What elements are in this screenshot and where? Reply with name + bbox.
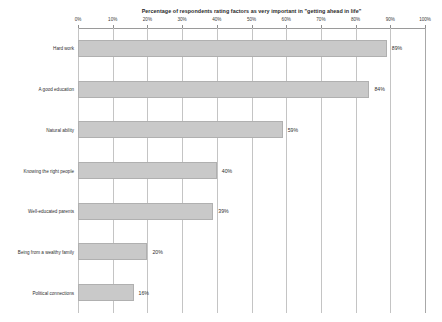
x-tick-mark xyxy=(147,25,148,28)
category-label: Well-educated parents xyxy=(0,209,74,214)
x-tick-label: 30% xyxy=(177,17,186,22)
category-label: Being from a wealthy family xyxy=(0,249,74,254)
x-tick-mark xyxy=(113,25,114,28)
bar-row: 39% xyxy=(78,203,425,220)
x-tick-label: 10% xyxy=(108,17,117,22)
x-tick-label: 70% xyxy=(316,17,325,22)
category-label: Natural ability xyxy=(0,127,74,132)
x-tick-label: 60% xyxy=(282,17,291,22)
bar xyxy=(78,243,147,260)
bar xyxy=(78,284,134,301)
bar-value-label: 39% xyxy=(218,208,228,214)
bar xyxy=(78,81,369,98)
bar-row: 16% xyxy=(78,284,425,301)
x-tick-mark xyxy=(390,25,391,28)
bar xyxy=(78,162,217,179)
plot-area: 0%10%20%30%40%50%60%70%80%90%100%89%84%5… xyxy=(78,28,425,313)
x-tick-label: 50% xyxy=(247,17,256,22)
bar-value-label: 59% xyxy=(288,127,298,133)
x-tick-label: 90% xyxy=(386,17,395,22)
bar-row: 59% xyxy=(78,121,425,138)
bar-value-label: 84% xyxy=(374,86,384,92)
x-tick-mark xyxy=(252,25,253,28)
category-label: Knowing the right people xyxy=(0,168,74,173)
category-label: A good education xyxy=(0,87,74,92)
chart-title: Percentage of respondents rating factors… xyxy=(78,8,425,14)
x-tick-label: 40% xyxy=(212,17,221,22)
x-tick-mark xyxy=(217,25,218,28)
x-tick-mark xyxy=(286,25,287,28)
x-tick-label: 0% xyxy=(75,17,82,22)
bar-value-label: 20% xyxy=(152,249,162,255)
bar xyxy=(78,121,283,138)
category-label: Hard work xyxy=(0,46,74,51)
bar-value-label: 16% xyxy=(139,290,149,296)
x-tick-label: 20% xyxy=(143,17,152,22)
x-tick-mark xyxy=(425,25,426,28)
bar-value-label: 40% xyxy=(222,168,232,174)
x-tick-label: 80% xyxy=(351,17,360,22)
x-tick-mark xyxy=(182,25,183,28)
x-tick-mark xyxy=(78,25,79,28)
x-tick-mark xyxy=(321,25,322,28)
bar-row: 40% xyxy=(78,162,425,179)
bar xyxy=(78,203,213,220)
gridline-100pct xyxy=(425,28,426,313)
bar-value-label: 89% xyxy=(392,45,402,51)
x-tick-mark xyxy=(356,25,357,28)
bar-row: 20% xyxy=(78,243,425,260)
bar xyxy=(78,40,387,57)
category-label: Political connections xyxy=(0,290,74,295)
bar-row: 84% xyxy=(78,81,425,98)
bar-chart: Percentage of respondents rating factors… xyxy=(0,0,442,322)
x-tick-label: 100% xyxy=(419,17,431,22)
bar-row: 89% xyxy=(78,40,425,57)
category-axis: Hard workA good educationNatural ability… xyxy=(0,28,74,313)
